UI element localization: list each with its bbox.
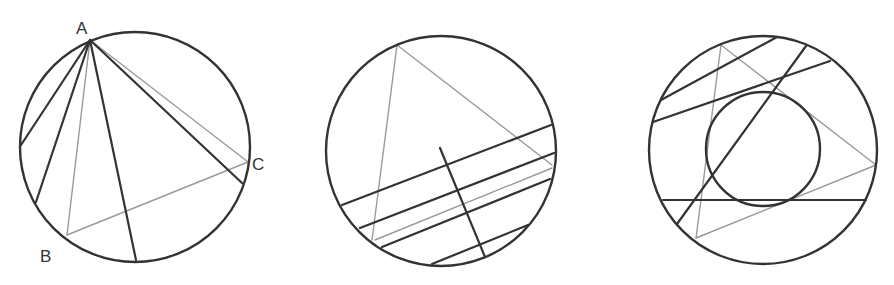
inner-circle: [706, 92, 820, 206]
dark-chord: [661, 37, 777, 100]
dark-chord: [90, 40, 136, 260]
dark-chord: [36, 40, 90, 202]
gray-segment: [90, 40, 248, 162]
figure-2-parallel-chords: [326, 36, 556, 266]
figure-1-circumcircle-chords: ABC: [20, 19, 264, 266]
gray-segment: [397, 45, 552, 165]
point-label-c: C: [252, 155, 264, 174]
point-label-b: B: [40, 247, 51, 266]
dark-chord: [440, 148, 485, 257]
gray-segment: [372, 45, 397, 240]
point-label-a: A: [76, 19, 88, 38]
diagram-canvas: ABC: [0, 0, 894, 285]
dark-chord: [653, 61, 830, 122]
figure-3-incircle-tangents: [649, 36, 877, 264]
dark-chord: [677, 46, 806, 224]
dark-chord: [90, 40, 242, 183]
geometry-diagram: ABC: [0, 0, 894, 285]
outer-circle: [649, 36, 877, 264]
